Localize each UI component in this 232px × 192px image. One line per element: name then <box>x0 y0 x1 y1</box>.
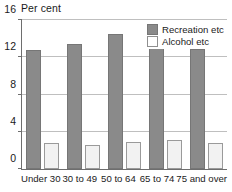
bar-alcohol <box>85 145 100 169</box>
legend-label: Alcohol etc <box>162 36 209 47</box>
bar-group <box>22 20 63 169</box>
bar-chart: Per cent 0481216 Under 3030 to 4950 to 6… <box>0 0 232 192</box>
bar-recreation <box>26 50 41 169</box>
bar-alcohol <box>126 142 141 169</box>
y-axis-tick-label: 12 <box>4 41 16 52</box>
legend-label: Recreation etc <box>162 24 224 35</box>
x-axis-labels: Under 3030 to 4950 to 6465 to 7475 and o… <box>21 173 227 185</box>
x-axis-label: Under 30 <box>21 173 60 185</box>
chart-legend: Recreation etcAlcohol etc <box>145 22 226 49</box>
y-axis-tick-label: 8 <box>10 78 16 89</box>
bar-recreation <box>190 49 205 169</box>
bar-group <box>104 20 145 169</box>
bar-recreation <box>67 44 82 169</box>
y-axis-tick-label: 4 <box>10 115 16 126</box>
bar-recreation <box>108 34 123 169</box>
y-axis-tick-label: 0 <box>10 153 16 164</box>
bar-alcohol <box>167 140 182 169</box>
legend-item[interactable]: Recreation etc <box>147 24 224 35</box>
y-axis-tick-label: 16 <box>4 4 16 15</box>
x-axis-label: 30 to 49 <box>60 173 99 185</box>
legend-item[interactable]: Alcohol etc <box>147 36 224 47</box>
x-axis-label: 65 to 74 <box>138 173 177 185</box>
chart-title: Per cent <box>21 2 61 14</box>
x-axis-label: 50 to 64 <box>99 173 138 185</box>
legend-swatch-icon <box>147 36 158 47</box>
bar-alcohol <box>44 143 59 169</box>
bar-alcohol <box>208 143 223 169</box>
x-axis-label: 75 and over <box>176 173 227 185</box>
bar-group <box>63 20 104 169</box>
legend-swatch-icon <box>147 24 158 35</box>
